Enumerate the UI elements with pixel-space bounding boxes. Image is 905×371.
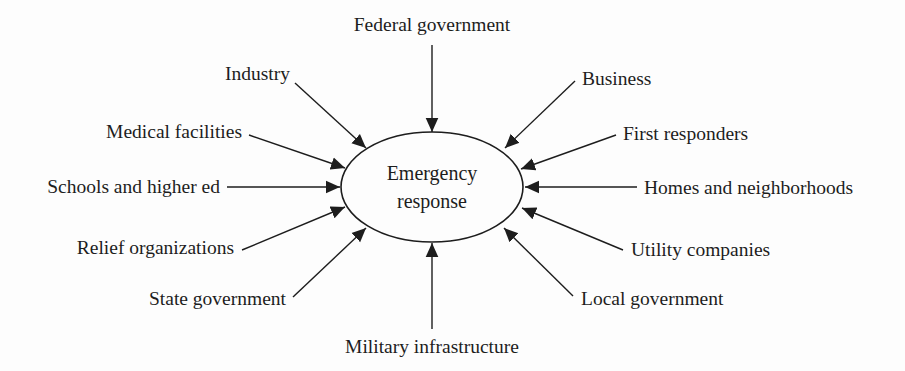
- node-medical-facilities: Medical facilities: [106, 121, 242, 142]
- node-federal-government: Federal government: [354, 14, 511, 35]
- node-utility-companies: Utility companies: [631, 239, 770, 260]
- edge-business: [505, 81, 575, 148]
- edge-local: [504, 228, 573, 296]
- node-local-government: Local government: [581, 288, 724, 309]
- diagram-svg: Emergency response Federal government In…: [0, 0, 905, 371]
- node-homes-and-neighborhoods: Homes and neighborhoods: [644, 177, 853, 198]
- node-first-responders: First responders: [623, 123, 748, 144]
- center-node: Emergency response: [341, 132, 523, 242]
- edge-utility: [522, 208, 623, 250]
- node-business: Business: [582, 68, 651, 89]
- node-state-government: State government: [149, 288, 287, 309]
- edge-industry: [295, 83, 366, 148]
- center-ellipse: [341, 132, 523, 242]
- node-industry: Industry: [225, 63, 290, 84]
- node-schools-and-higher-ed: Schools and higher ed: [47, 176, 220, 197]
- edge-state: [293, 228, 366, 297]
- diagram-canvas: Emergency response Federal government In…: [0, 0, 905, 371]
- node-military-infrastructure: Military infrastructure: [345, 336, 519, 357]
- edge-first: [521, 135, 616, 169]
- center-label-line2: response: [397, 190, 467, 213]
- edge-medical: [249, 135, 345, 168]
- node-relief-organizations: Relief organizations: [77, 237, 234, 258]
- edge-relief: [242, 207, 345, 250]
- center-label-line1: Emergency: [387, 162, 478, 185]
